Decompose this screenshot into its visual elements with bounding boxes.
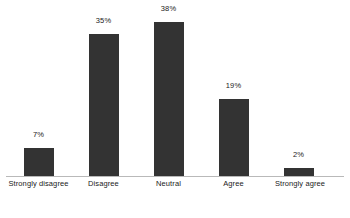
bar-value-label: 19% — [226, 81, 241, 90]
bar-value-label: 35% — [96, 16, 111, 25]
category-labels: Strongly disagree Disagree Neutral Agree… — [0, 179, 350, 218]
category-axis-line — [6, 176, 344, 177]
bar-value-label: 2% — [293, 150, 304, 159]
bar-group-disagree: 35% — [71, 0, 136, 176]
category-label-neutral: Neutral — [136, 179, 201, 189]
bar-group-agree: 19% — [201, 0, 266, 176]
bar-strongly-agree — [284, 168, 314, 176]
category-label-agree: Agree — [201, 179, 266, 189]
bar-group-strongly-disagree: 7% — [6, 0, 71, 176]
bar-strongly-disagree — [24, 148, 54, 176]
bar-neutral — [154, 22, 184, 176]
bar-disagree — [89, 34, 119, 176]
bar-chart: 7% 35% 38% 19% 2% Strongly disagr — [0, 0, 350, 218]
bar-agree — [219, 99, 249, 176]
bars-layer: 7% 35% 38% 19% 2% — [0, 0, 350, 176]
bar-group-strongly-agree: 2% — [266, 0, 331, 176]
bar-group-neutral: 38% — [136, 0, 201, 176]
category-label-disagree: Disagree — [71, 179, 136, 189]
category-label-strongly-disagree: Strongly disagree — [6, 179, 71, 189]
plot-area: 7% 35% 38% 19% 2% — [0, 0, 350, 177]
bar-value-label: 7% — [33, 130, 44, 139]
bar-value-label: 38% — [161, 4, 176, 13]
category-label-strongly-agree: Strongly agree — [260, 179, 340, 189]
